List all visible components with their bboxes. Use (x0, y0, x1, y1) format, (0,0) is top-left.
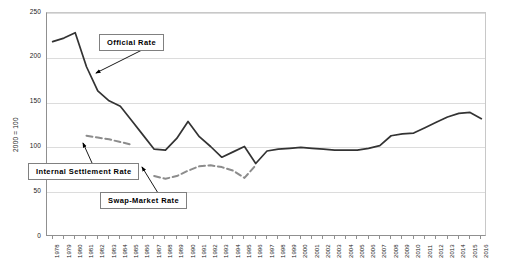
x-tick-label: 1978 (54, 244, 60, 258)
x-tick-label: 1994 (235, 244, 241, 258)
y-tick-label: 0 (5, 233, 41, 240)
x-tick-label: 2005 (359, 244, 365, 258)
x-tick-label: 1997 (269, 244, 275, 258)
x-tick-label: 1992 (212, 244, 218, 258)
x-tick-label: 2004 (348, 244, 354, 258)
y-tick-label: 50 (5, 188, 41, 195)
x-tick-label: 1979 (66, 244, 72, 258)
x-tick-label: 1990 (190, 244, 196, 258)
x-tickmark (131, 236, 132, 239)
x-tick-label: 2003 (336, 244, 342, 258)
x-tick-label: 1988 (167, 244, 173, 258)
gridline (47, 58, 485, 59)
x-tick-label: 1980 (77, 244, 83, 258)
series-line-swap-market-rate (154, 165, 256, 178)
x-tick-label: 2002 (325, 244, 331, 258)
callout-official-rate: Official Rate (99, 34, 164, 51)
x-tickmark (334, 236, 335, 239)
x-tickmark (85, 236, 86, 239)
x-tickmark (368, 236, 369, 239)
x-tickmark (142, 236, 143, 239)
x-tick-label: 2014 (460, 244, 466, 258)
x-tick-label: 1986 (144, 244, 150, 258)
x-tick-label: 1981 (88, 244, 94, 258)
x-tickmark (322, 236, 323, 239)
x-tickmark (413, 236, 414, 239)
x-tickmark (379, 236, 380, 239)
x-tick-label: 1993 (223, 244, 229, 258)
x-tick-label: 2013 (449, 244, 455, 258)
x-tickmark (447, 236, 448, 239)
x-tickmark (153, 236, 154, 239)
x-tickmark (311, 236, 312, 239)
x-tickmark (300, 236, 301, 239)
x-tickmark (164, 236, 165, 239)
x-tick-label: 2012 (438, 244, 444, 258)
x-tick-label: 2011 (427, 245, 433, 258)
y-tick-label: 200 (5, 53, 41, 60)
x-tickmark (97, 236, 98, 239)
x-tick-label: 1989 (178, 244, 184, 258)
x-tickmark (435, 236, 436, 239)
x-tickmark (187, 236, 188, 239)
exchange-rate-line-chart: 2000 = 100 050100150200250 1978197919801… (0, 0, 506, 278)
x-tick-label: 1984 (122, 244, 128, 258)
y-tick-label: 250 (5, 9, 41, 16)
x-tickmark (401, 236, 402, 239)
x-tickmark (458, 236, 459, 239)
x-tickmark (424, 236, 425, 239)
x-tickmark (108, 236, 109, 239)
gridline (47, 147, 485, 148)
x-tickmark (390, 236, 391, 239)
x-tick-label: 1991 (201, 244, 207, 258)
gridline (47, 103, 485, 104)
x-tick-label: 1985 (133, 244, 139, 258)
x-tickmark (469, 236, 470, 239)
x-tick-label: 1987 (156, 244, 162, 258)
x-tickmark (52, 236, 53, 239)
series-line-internal-settlement-rate (86, 136, 131, 145)
y-tick-label: 100 (5, 143, 41, 150)
x-tickmark (289, 236, 290, 239)
x-tickmark (176, 236, 177, 239)
x-tick-label: 2016 (483, 244, 489, 258)
x-tickmark (221, 236, 222, 239)
x-tickmark (345, 236, 346, 239)
x-tickmark (63, 236, 64, 239)
x-tick-label: 1983 (111, 244, 117, 258)
x-tick-label: 1982 (99, 244, 105, 258)
x-tickmark (277, 236, 278, 239)
x-tick-label: 2006 (370, 244, 376, 258)
callout-swap-market-rate: Swap-Market Rate (100, 192, 187, 209)
y-tick-label: 150 (5, 98, 41, 105)
x-tick-label: 2009 (404, 244, 410, 258)
x-tick-label: 1998 (280, 244, 286, 258)
x-tickmark (119, 236, 120, 239)
gridline (47, 13, 485, 14)
x-tickmark (210, 236, 211, 239)
x-tick-label: 1995 (246, 244, 252, 258)
x-tickmark (243, 236, 244, 239)
x-tick-label: 2015 (472, 244, 478, 258)
x-tickmark (266, 236, 267, 239)
x-tickmark (198, 236, 199, 239)
x-tick-label: 2007 (381, 244, 387, 258)
x-tickmark (356, 236, 357, 239)
x-tick-label: 1999 (291, 244, 297, 258)
series-line-official-rate (53, 33, 482, 164)
x-tick-label: 2010 (415, 244, 421, 258)
x-tickmark (232, 236, 233, 239)
x-tickmark (74, 236, 75, 239)
callout-internal-settlement-rate: Internal Settlement Rate (28, 163, 139, 180)
x-tickmark (255, 236, 256, 239)
x-tick-label: 2001 (314, 244, 320, 258)
x-tick-label: 2008 (393, 244, 399, 258)
x-tickmark (480, 236, 481, 239)
x-tick-label: 1996 (257, 244, 263, 258)
x-tick-label: 2000 (302, 244, 308, 258)
